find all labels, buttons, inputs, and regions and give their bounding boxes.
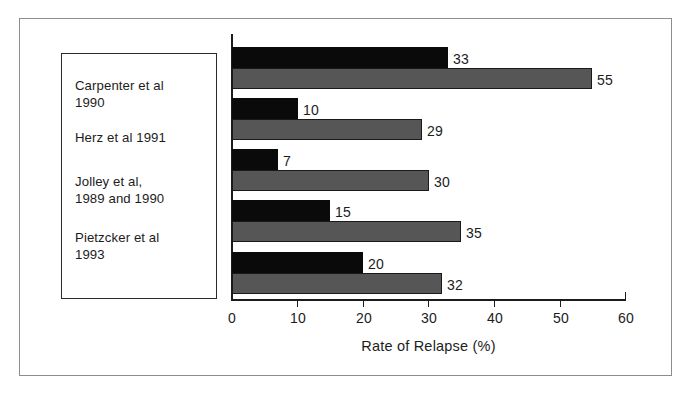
bar-carpenter-series-a — [232, 47, 448, 68]
plot-area: 0 10 20 30 40 50 60 Rate of Relapse (%) … — [0, 0, 688, 393]
x-tick-10 — [297, 300, 298, 307]
x-tick-label-10: 10 — [290, 310, 306, 326]
bar-value-carpenter-series-b: 55 — [597, 72, 613, 88]
bar-value-group5-series-a: 20 — [368, 256, 384, 272]
x-tick-label-60: 60 — [618, 310, 634, 326]
bar-jolley-series-b — [232, 170, 429, 191]
x-axis-title: Rate of Relapse (%) — [231, 338, 626, 354]
bar-group5-series-b — [232, 273, 442, 294]
chart-page: Carpenter et al 1990 Herz et al 1991 Jol… — [0, 0, 688, 393]
x-tick-30 — [428, 300, 429, 307]
bar-value-pietzcker-series-a: 15 — [335, 204, 351, 220]
bar-value-herz-series-a: 10 — [303, 102, 319, 118]
x-tick-40 — [494, 300, 495, 307]
x-tick-20 — [363, 300, 364, 307]
bar-group5-series-a — [232, 252, 363, 273]
bar-jolley-series-a — [232, 149, 278, 170]
bar-value-pietzcker-series-b: 35 — [466, 225, 482, 241]
bar-pietzcker-series-b — [232, 221, 461, 242]
bar-value-carpenter-series-a: 33 — [453, 51, 469, 67]
bar-herz-series-a — [232, 98, 298, 119]
x-tick-label-20: 20 — [356, 310, 372, 326]
x-tick-label-40: 40 — [487, 310, 503, 326]
bar-carpenter-series-b — [232, 68, 592, 89]
x-tick-label-50: 50 — [553, 310, 569, 326]
x-tick-50 — [560, 300, 561, 307]
bar-pietzcker-series-a — [232, 200, 330, 221]
bar-value-jolley-series-b: 30 — [434, 174, 450, 190]
x-tick-60 — [625, 292, 626, 300]
x-tick-label-30: 30 — [421, 310, 437, 326]
bar-value-group5-series-b: 32 — [447, 277, 463, 293]
bar-value-jolley-series-a: 7 — [283, 153, 291, 169]
x-tick-label-0: 0 — [228, 310, 236, 326]
bar-value-herz-series-b: 29 — [427, 123, 443, 139]
bar-herz-series-b — [232, 119, 422, 140]
